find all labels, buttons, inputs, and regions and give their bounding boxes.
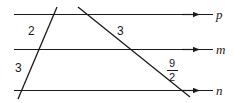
- segment-label-left-upper: 2: [28, 25, 35, 37]
- line-label-m: m: [216, 43, 225, 56]
- left-transversal: [18, 7, 57, 99]
- line-label-p: p: [216, 8, 223, 21]
- fraction-numerator: 9: [165, 58, 179, 70]
- figure-canvas: [0, 0, 234, 103]
- segment-label-right-upper: 3: [117, 25, 124, 37]
- line-label-n: n: [216, 84, 223, 97]
- fraction-denominator: 2: [165, 71, 179, 83]
- segment-label-right-lower-fraction: 9 2: [165, 58, 179, 83]
- right-transversal: [78, 7, 190, 97]
- geometry-figure: p m n 2 3 3 9 2: [0, 0, 234, 103]
- segment-label-left-lower: 3: [15, 62, 22, 74]
